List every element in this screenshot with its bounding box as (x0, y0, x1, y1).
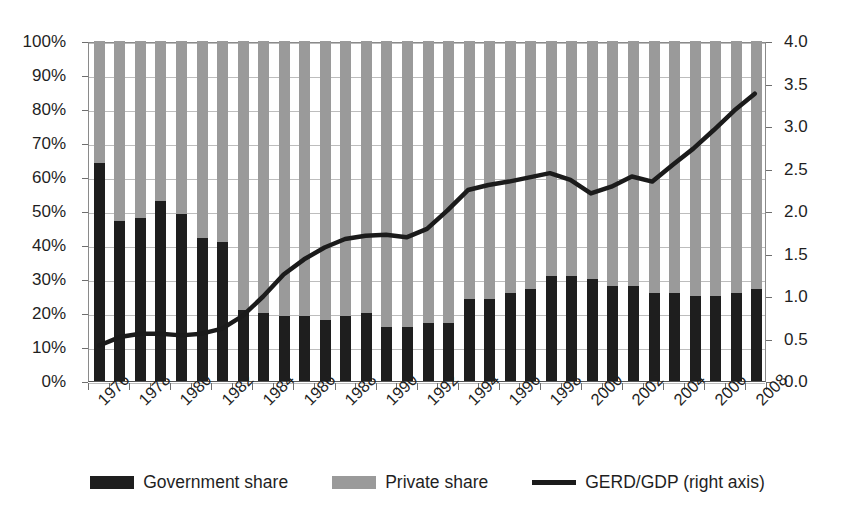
x-axis-tick (88, 383, 89, 390)
y-axis-left-tick-label: 10% (32, 339, 66, 356)
gerd-gdp-line-path (99, 94, 755, 346)
legend-swatch-line-icon (532, 480, 576, 485)
y-axis-left-tick-label: 70% (32, 135, 66, 152)
y-axis-right-tick-label: 1.5 (784, 246, 808, 263)
y-axis-right-tick (766, 340, 772, 341)
y-axis-right-tick-label: 2.5 (784, 161, 808, 178)
chart-container: 0%10%20%30%40%50%60%70%80%90%100% 0.00.5… (0, 0, 855, 526)
legend-swatch-gray-square-icon (332, 476, 376, 489)
y-axis-right-tick-label: 4.0 (784, 33, 808, 50)
y-axis-left-tick-label: 20% (32, 305, 66, 322)
y-axis-left-tick-label: 0% (41, 373, 66, 390)
y-axis-left-tick-label: 80% (32, 101, 66, 118)
plot-area (88, 42, 766, 382)
y-axis-right-tick (766, 255, 772, 256)
y-axis-left-tick-label: 50% (32, 203, 66, 220)
y-axis-left-tick-label: 30% (32, 271, 66, 288)
chart-legend: Government share Private share GERD/GDP … (0, 472, 855, 493)
y-axis-left-tick-label: 90% (32, 67, 66, 84)
y-axis-right-tick (766, 212, 772, 213)
y-axis-right-tick-label: 0.5 (784, 331, 808, 348)
y-axis-right-tick (766, 42, 772, 43)
y-axis-right-tick (766, 297, 772, 298)
legend-label: GERD/GDP (right axis) (585, 472, 765, 493)
y-axis-right-tick (766, 127, 772, 128)
legend-swatch-dark-square-icon (90, 476, 134, 489)
y-axis-right-tick-label: 2.0 (784, 203, 808, 220)
legend-label: Private share (385, 472, 488, 493)
y-axis-left-tick-label: 60% (32, 169, 66, 186)
y-axis-right-tick-label: 3.5 (784, 76, 808, 93)
y-axis-right-tick (766, 170, 772, 171)
y-axis-right-tick-label: 1.0 (784, 288, 808, 305)
gerd-gdp-line (89, 43, 765, 381)
legend-item-government-share: Government share (90, 472, 288, 493)
y-axis-right-tick (766, 85, 772, 86)
y-axis-left-tick-label: 100% (23, 33, 66, 50)
legend-label: Government share (143, 472, 288, 493)
y-axis-left-tick-label: 40% (32, 237, 66, 254)
y-axis-right-tick-label: 3.0 (784, 118, 808, 135)
legend-item-gerd-gdp: GERD/GDP (right axis) (532, 472, 765, 493)
legend-item-private-share: Private share (332, 472, 488, 493)
